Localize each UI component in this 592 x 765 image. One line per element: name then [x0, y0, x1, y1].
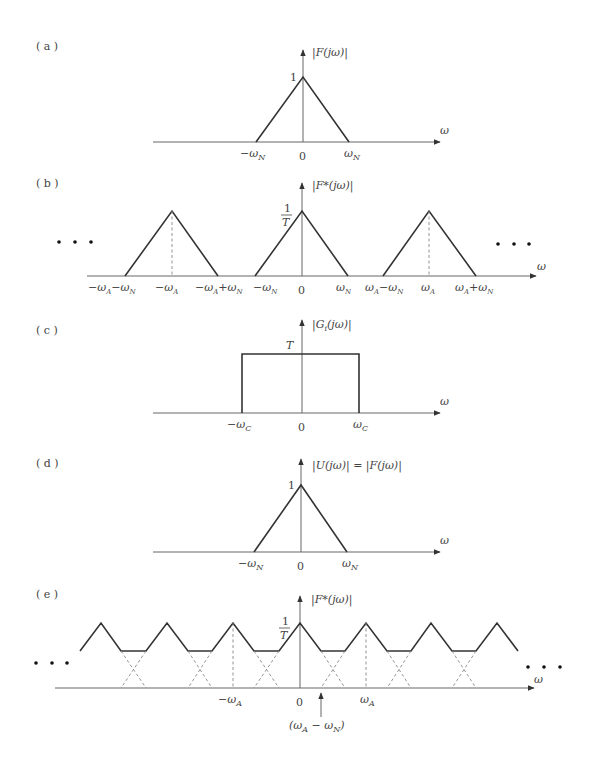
panel-tag: ( e ): [36, 588, 58, 601]
ideal-filter-rect: [242, 354, 359, 413]
tick-neg-wn: −ωN: [238, 557, 264, 572]
panel-c: ( c ) |Gi(jω)| T ω −ωC 0 ωC: [36, 318, 449, 434]
y-axis-label: |U(jω)| = |F(jω)|: [312, 459, 402, 473]
x-axis-label: ω: [537, 260, 546, 273]
ellipsis-dot: [542, 665, 546, 669]
spectrum-triangle-left: [125, 211, 218, 276]
panel-b: ( b ) |F*(jω)| 1 T ω −ωA−ωN −ωA −ωA+ωN −…: [36, 177, 546, 297]
y-axis-label: |Gi(jω)|: [312, 318, 352, 333]
tick-pos-wn: ωN: [344, 147, 361, 162]
panel-tag: ( c ): [36, 324, 58, 337]
ellipsis-dot: [50, 661, 54, 665]
tick-neg-wc: −ωC: [227, 418, 251, 433]
ellipsis-dot: [527, 242, 531, 246]
x-axis-label: ω: [534, 673, 543, 686]
y-axis-label: |F(jω)|: [312, 46, 348, 60]
x-axis-label: ω: [440, 395, 449, 408]
ellipsis-dot: [496, 242, 500, 246]
svg-text:ωA: ωA: [421, 281, 435, 296]
panel-tag: ( b ): [36, 177, 59, 190]
panel-tag: ( d ): [36, 457, 59, 470]
peak-label-num: 1: [284, 202, 291, 215]
ellipsis-dot: [57, 240, 61, 244]
tick-labels: −ωA−ωN −ωA −ωA+ωN −ωN 0 ωN ωA−ωN ωA ωA+ω…: [88, 281, 494, 297]
ellipsis-dot: [558, 665, 562, 669]
aliased-spectrum-envelope: [80, 623, 518, 651]
y-axis-label: |F*(jω)|: [311, 593, 353, 607]
svg-text:−ωN: −ωN: [253, 281, 278, 296]
tick-neg-wa: −ωA: [218, 693, 242, 708]
tick-zero: 0: [299, 150, 306, 163]
panel-tag: ( a ): [36, 40, 58, 53]
peak-label: 1: [288, 479, 295, 492]
figure: ( a ) |F(jω)| 1 ω −ωN 0 ωN ( b ) |F*(jω)…: [0, 0, 592, 765]
spectrum-triangle-right: [383, 211, 476, 276]
tick-pos-wn: ωN: [342, 557, 359, 572]
panel-e: ( e ) |F*(jω)| 1 T: [34, 588, 562, 734]
y-axis-label: |F*(jω)|: [312, 179, 354, 193]
peak-label: 1: [290, 71, 297, 84]
x-axis-label: ω: [440, 534, 449, 547]
annotation-label: (ωA − ωN): [289, 719, 345, 734]
panel-a: ( a ) |F(jω)| 1 ω −ωN 0 ωN: [36, 40, 449, 163]
tick-zero: 0: [297, 560, 304, 573]
tick-pos-wc: ωC: [353, 418, 368, 433]
svg-text:−ωA−ωN: −ωA−ωN: [88, 281, 136, 296]
svg-text:−ωA+ωN: −ωA+ωN: [195, 281, 243, 296]
ellipsis-dot: [73, 240, 77, 244]
ellipsis-dot: [512, 242, 516, 246]
ellipsis-dot: [65, 661, 69, 665]
svg-text:ωN: ωN: [336, 281, 352, 296]
level-label: T: [286, 339, 295, 352]
svg-text:ωA+ωN: ωA+ωN: [455, 281, 494, 296]
tick-neg-wn: −ωN: [240, 147, 266, 162]
tick-zero: 0: [298, 421, 305, 434]
tick-pos-wa: ωA: [360, 693, 375, 708]
ellipsis-dot: [89, 240, 93, 244]
ellipsis-dot: [526, 665, 530, 669]
svg-text:−ωA: −ωA: [155, 281, 178, 296]
svg-text:0: 0: [298, 284, 305, 297]
svg-text:ωA−ωN: ωA−ωN: [365, 281, 404, 296]
x-axis-label: ω: [440, 124, 449, 137]
tick-zero: 0: [296, 696, 303, 709]
ellipsis-dot: [34, 661, 38, 665]
peak-label-num: 1: [282, 615, 289, 628]
panel-d: ( d ) |U(jω)| = |F(jω)| 1 ω −ωN 0 ωN: [36, 457, 449, 573]
